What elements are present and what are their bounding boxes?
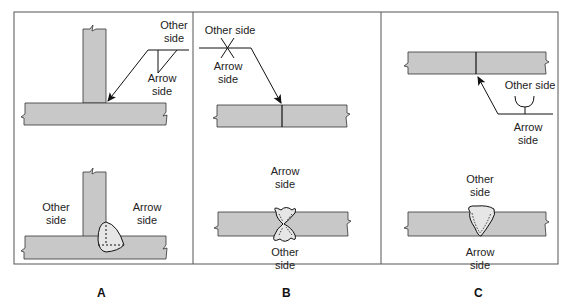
label-line: side bbox=[470, 259, 490, 271]
panel-c-letter: C bbox=[474, 286, 483, 300]
panel-b-bottom-butt-joint bbox=[214, 208, 351, 242]
panel-c-top-other-side-label: Other side bbox=[500, 79, 560, 92]
label-line: side bbox=[46, 214, 66, 226]
panel-c-bottom-arrow-side-label: Arrow side bbox=[460, 246, 500, 272]
label-line: Other bbox=[271, 246, 299, 258]
label-line: Arrow bbox=[148, 72, 177, 84]
panel-b-top-other-side-label: Other side bbox=[200, 24, 260, 37]
label-line: side bbox=[470, 186, 490, 198]
label-line: side bbox=[518, 134, 538, 146]
label-line: Other bbox=[42, 201, 70, 213]
panel-b-bottom-other-side-label: Other side bbox=[265, 246, 305, 272]
panel-a-bottom-arrow-side-label: Arrow side bbox=[127, 201, 167, 227]
panel-a-top-other-side-label: Other side bbox=[152, 19, 196, 45]
panel-a-bottom-other-side-label: Other side bbox=[36, 201, 76, 227]
label-line: side bbox=[137, 214, 157, 226]
panel-a-top-arrow-side-label: Arrow side bbox=[140, 72, 184, 98]
panel-b-top-butt-joint bbox=[213, 105, 350, 127]
panel-b-top-arrow-side-label: Arrow side bbox=[208, 60, 248, 86]
panel-a-letter: A bbox=[97, 286, 106, 300]
label-line: side bbox=[152, 85, 172, 97]
panel-b-letter: B bbox=[282, 286, 291, 300]
label-line: side bbox=[218, 73, 238, 85]
panel-c-top-butt-joint bbox=[404, 52, 549, 74]
panel-c-bottom-other-side-label: Other side bbox=[460, 173, 500, 199]
label-line: side bbox=[275, 178, 295, 190]
label-line: Arrow bbox=[466, 246, 495, 258]
label-line: side bbox=[164, 32, 184, 44]
label-line: side bbox=[275, 259, 295, 271]
label-line: Other bbox=[160, 19, 188, 31]
label-line: Arrow bbox=[271, 165, 300, 177]
label-line: Arrow bbox=[133, 201, 162, 213]
panel-b-bottom-arrow-side-label: Arrow side bbox=[265, 165, 305, 191]
label-line: Arrow bbox=[214, 60, 243, 72]
panel-c-top-arrow-side-label: Arrow side bbox=[508, 121, 548, 147]
label-line: Arrow bbox=[514, 121, 543, 133]
panel-c-bottom-butt-joint bbox=[404, 206, 549, 236]
label-line: Other bbox=[466, 173, 494, 185]
